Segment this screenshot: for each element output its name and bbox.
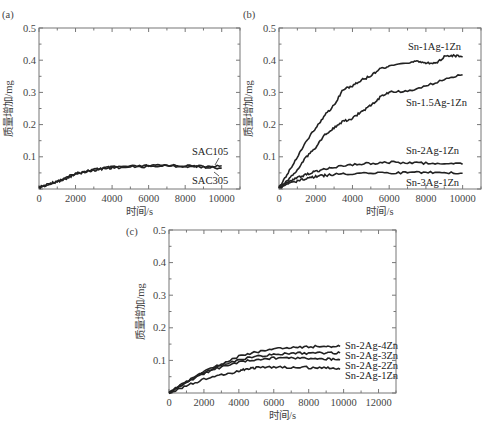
y-tick-label: 0.5 [23, 23, 36, 34]
series-label-sac105: SAC105 [192, 146, 228, 157]
y-tick-label: 0.5 [153, 225, 166, 236]
y-tick-label: 0.1 [153, 355, 166, 366]
x-tick-label: 0 [276, 193, 281, 204]
x-tick-label: 6000 [379, 193, 400, 204]
plot-frame [279, 28, 481, 189]
y-tick-label: 0.4 [263, 55, 277, 66]
series-line-sn-1ag-1zn [279, 55, 463, 188]
series-label-sn-1-5ag-1zn: Sn-1.5Ag-1Zn [406, 97, 468, 108]
figure: 02000400060008000100000.10.20.30.40.5时间/… [0, 0, 488, 429]
y-tick-label: 0.2 [263, 119, 276, 130]
series-label-sn-2ag-1zn: Sn-2Ag-1Zn [406, 145, 460, 156]
panel-label: (c) [126, 226, 138, 238]
y-tick-label: 0.5 [263, 23, 276, 34]
x-tick-label: 8000 [415, 193, 436, 204]
y-tick-label: 0.1 [23, 151, 36, 162]
label-leader-line [215, 158, 219, 165]
y-tick-label: 0.4 [23, 55, 37, 66]
x-tick-label: 4000 [342, 193, 363, 204]
x-tick-label: 6000 [138, 193, 159, 204]
y-tick-label: 0.2 [153, 322, 166, 333]
x-tick-label: 10000 [209, 193, 235, 204]
y-axis-label: 质量增加/mg [242, 80, 254, 137]
x-axis-label: 时间/s [269, 409, 296, 421]
series-line-sn-1-5ag-1zn [279, 75, 463, 188]
x-tick-label: 0 [166, 397, 171, 408]
x-tick-label: 2000 [305, 193, 326, 204]
y-tick-label: 0.2 [23, 119, 36, 130]
x-tick-label: 10000 [330, 397, 356, 408]
x-tick-label: 4000 [228, 397, 249, 408]
x-tick-label: 0 [36, 193, 41, 204]
series-label-sn-2ag-1zn: Sn-2Ag-1Zn [345, 370, 399, 381]
y-tick-label: 0.3 [263, 87, 276, 98]
y-axis-label: 质量增加/mg [134, 283, 146, 340]
x-tick-label: 10000 [450, 193, 476, 204]
chart-panel-c: 0200040006000800010000120000.10.20.30.40… [126, 225, 399, 422]
x-tick-label: 8000 [175, 193, 196, 204]
panel-label: (b) [243, 9, 256, 21]
chart-panel-b: 02000400060008000100000.10.20.30.40.5时间/… [242, 9, 481, 217]
y-axis-label: 质量增加/mg [2, 80, 14, 137]
x-tick-label: 4000 [102, 193, 123, 204]
series-label-sac305: SAC305 [192, 175, 228, 186]
y-tick-label: 0.3 [23, 87, 36, 98]
chart-panel-a: 02000400060008000100000.10.20.30.40.5时间/… [2, 9, 240, 217]
x-tick-label: 12000 [365, 397, 391, 408]
panel-label: (a) [2, 9, 14, 21]
series-line-sn-2ag-2zn [169, 357, 340, 393]
x-tick-label: 8000 [298, 397, 319, 408]
x-tick-label: 6000 [263, 397, 284, 408]
x-tick-label: 2000 [65, 193, 86, 204]
x-axis-label: 时间/s [366, 205, 393, 217]
y-tick-label: 0.3 [153, 290, 166, 301]
series-line-sn-2ag-1zn [169, 366, 340, 393]
series-label-sn-3ag-1zn: Sn-3Ag-1Zn [406, 177, 460, 188]
x-tick-label: 2000 [193, 397, 214, 408]
x-axis-label: 时间/s [126, 205, 153, 217]
series-label-sn-1ag-1zn: Sn-1Ag-1Zn [408, 41, 462, 52]
y-tick-label: 0.4 [153, 257, 167, 268]
y-tick-label: 0.1 [263, 151, 276, 162]
